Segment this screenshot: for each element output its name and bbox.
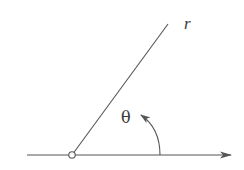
diagram-svg [0,0,244,170]
polar-diagram: r θ [0,0,244,170]
radius-ray [72,24,168,155]
angle-arc [141,115,160,155]
angle-label: θ [121,110,131,126]
radius-label: r [184,15,191,32]
origin-pole-icon [69,152,75,158]
